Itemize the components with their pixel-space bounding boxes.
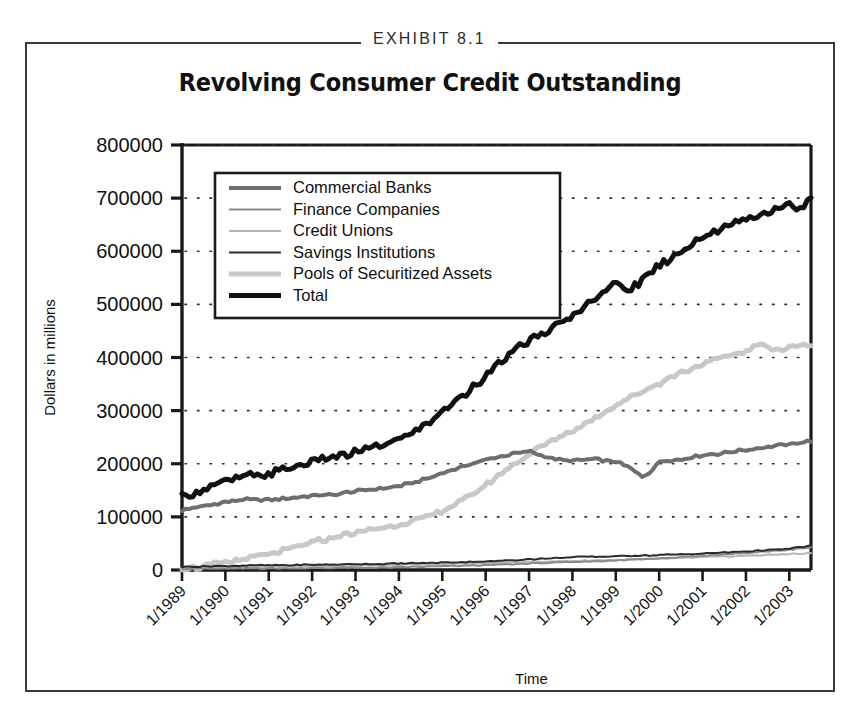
y-tick-label-4: 400000 [96,347,163,369]
y-tick-label-5: 500000 [96,293,163,315]
y-tick-label-1: 100000 [96,506,163,528]
legend-label-4: Pools of Securitized Assets [293,264,492,282]
legend-label-2: Credit Unions [293,221,393,239]
exhibit-label: EXHIBIT 8.1 [0,30,859,48]
x-tick-label-12: 1/2001 [663,582,710,629]
exhibit-label-text: EXHIBIT 8.1 [361,30,498,47]
chart-plot-container: 0100000200000300000400000500000600000700… [25,100,835,692]
y-tick-label-0: 0 [152,559,163,581]
x-tick-label-7: 1/1996 [446,582,493,629]
legend-label-5: Total [293,286,328,304]
x-tick-label-14: 1/2003 [750,582,797,629]
x-tick-label-1: 1/1990 [186,582,233,629]
line-chart: 0100000200000300000400000500000600000700… [25,100,835,692]
x-tick-label-2: 1/1991 [229,582,276,629]
y-tick-label-6: 600000 [96,240,163,262]
exhibit-page: EXHIBIT 8.1 Revolving Consumer Credit Ou… [0,0,859,719]
x-tick-label-13: 1/2002 [706,582,753,629]
legend-label-1: Finance Companies [293,200,440,218]
y-axis-title: Dollars in millions [41,299,58,416]
x-tick-label-10: 1/1999 [576,582,623,629]
x-tick-label-3: 1/1992 [273,582,320,629]
y-tick-label-8: 800000 [96,134,163,156]
x-tick-label-8: 1/1997 [490,582,537,629]
x-tick-label-6: 1/1995 [403,582,450,629]
legend-label-3: Savings Institutions [293,243,435,261]
x-tick-label-11: 1/2000 [620,582,667,629]
x-tick-label-5: 1/1994 [359,582,406,629]
chart-title: Revolving Consumer Credit Outstanding [25,68,835,97]
x-tick-label-4: 1/1993 [316,582,363,629]
legend-label-0: Commercial Banks [293,178,431,196]
x-tick-label-9: 1/1998 [533,582,580,629]
x-axis-title: Time [515,670,548,687]
x-tick-label-0: 1/1989 [142,582,189,629]
y-tick-label-2: 200000 [96,453,163,475]
y-tick-label-7: 700000 [96,187,163,209]
y-tick-label-3: 300000 [96,400,163,422]
